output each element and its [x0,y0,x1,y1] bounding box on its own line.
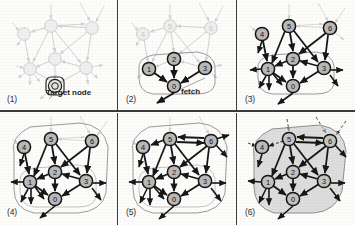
svg-text:2: 2 [172,168,176,177]
svg-text:6: 6 [209,25,213,32]
svg-text:4: 4 [141,143,145,152]
svg-text:1: 1 [28,178,32,187]
svg-text:5: 5 [287,135,291,144]
svg-text:4: 4 [260,30,264,39]
faded-nodes [18,20,99,76]
svg-text:0: 0 [172,195,176,204]
panel-5-graph: 1 2 3 0 4 5 6 [119,113,236,225]
svg-text:0: 0 [53,195,57,204]
svg-text:3: 3 [322,177,326,186]
divider-vertical-1 [117,0,118,112]
svg-text:3: 3 [203,177,207,186]
panel-3-graph: 1 2 3 0 4 5 6 [238,0,355,112]
svg-text:2: 2 [291,55,295,64]
svg-text:0: 0 [291,195,295,204]
panel-6-caption: (6) [245,207,255,217]
panel-3-caption: (3) [245,94,255,104]
svg-text:6: 6 [328,137,332,146]
divider-horizontal [0,110,355,112]
svg-text:1: 1 [147,65,151,74]
divider-vertical-3 [117,113,118,225]
svg-text:3: 3 [203,64,207,73]
panel-3: 1 2 3 0 4 5 6 (3) [238,0,355,112]
svg-text:4: 4 [22,143,26,152]
panel-1-caption: (1) [7,94,17,104]
panel-1: (1) Target node [0,0,117,112]
svg-text:5: 5 [168,23,172,30]
fetch-label: fetch [181,87,200,96]
svg-text:1: 1 [147,178,151,187]
panel-4-caption: (4) [7,207,17,217]
svg-text:2: 2 [53,168,57,177]
svg-text:1: 1 [266,178,270,187]
figure-container: (1) Target node [0,0,355,225]
svg-text:1: 1 [266,65,270,74]
svg-text:3: 3 [84,177,88,186]
svg-text:4: 4 [141,31,145,38]
svg-text:2: 2 [172,55,176,64]
panel-6-graph: 1 2 3 0 4 5 6 [238,113,355,225]
svg-text:2: 2 [291,168,295,177]
panel-5: 1 2 3 0 4 5 6 (5) [119,113,236,225]
faded-nodes [137,20,218,41]
svg-text:5: 5 [49,135,53,144]
svg-text:3: 3 [322,64,326,73]
svg-text:6: 6 [209,137,213,146]
panel-5-caption: (5) [126,207,136,217]
svg-text:6: 6 [90,137,94,146]
svg-text:4: 4 [260,143,264,152]
panel-6: 1 2 3 0 4 5 6 (6) [238,113,355,225]
panel-2-graph: 4 5 6 1 2 3 0 [119,0,236,112]
svg-text:0: 0 [291,82,295,91]
active-nodes [142,52,211,92]
divider-vertical-4 [236,113,237,225]
panel-4: 1 2 3 0 4 5 6 (4) [0,113,117,225]
divider-vertical-2 [236,0,237,112]
panel-2: 4 5 6 1 2 3 0 (2) fetch [119,0,236,112]
svg-text:6: 6 [328,24,332,33]
svg-text:0: 0 [172,82,176,91]
panel-2-caption: (2) [126,94,136,104]
svg-text:5: 5 [287,22,291,31]
target-node-label: Target node [46,88,91,97]
svg-text:5: 5 [168,135,172,144]
panel-4-graph: 1 2 3 0 4 5 6 [0,113,117,225]
